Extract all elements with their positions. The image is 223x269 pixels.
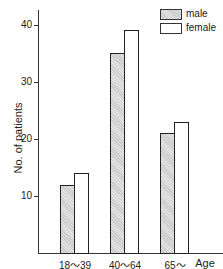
legend-label-female: female: [186, 22, 216, 33]
bar-female-18-39: [74, 173, 89, 254]
y-tick: [34, 196, 38, 197]
legend-swatch-female: [160, 23, 182, 34]
y-tick-label: 30: [6, 76, 32, 87]
bar-female-40-64: [124, 30, 139, 254]
x-category-label: 65～: [155, 257, 195, 269]
y-tick: [34, 25, 38, 26]
x-category-label: 40～64: [105, 257, 145, 269]
bar-male-65: [160, 133, 175, 254]
y-tick-label: 40: [6, 19, 32, 30]
y-tick: [34, 82, 38, 83]
legend-swatch-male: [160, 9, 182, 20]
y-axis-label: No. of patients: [12, 98, 24, 178]
bar-female-65: [174, 122, 189, 254]
x-axis-label: Age: [190, 257, 220, 269]
y-tick-label: 10: [6, 190, 32, 201]
y-tick: [34, 139, 38, 140]
bar-male-18-39: [60, 185, 75, 254]
legend-label-male: male: [186, 8, 208, 19]
y-axis: [38, 10, 39, 253]
x-category-label: 18～39: [55, 257, 95, 269]
bar-male-40-64: [110, 53, 125, 254]
